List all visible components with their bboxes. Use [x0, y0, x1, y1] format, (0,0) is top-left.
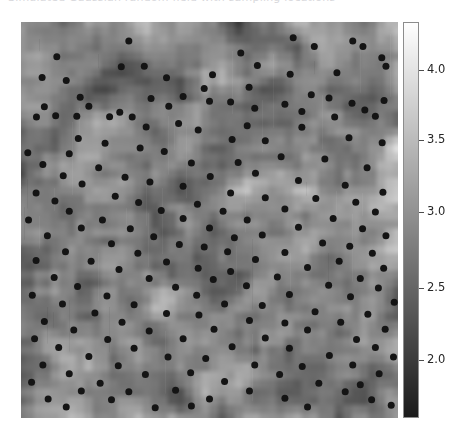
colorbar-tick-mark — [419, 288, 424, 289]
random-field-heatmap — [21, 22, 398, 418]
colorbar-tick-mark — [419, 140, 424, 141]
clipped-title-text: Simulated Gaussian random field with sam… — [8, 0, 335, 4]
colorbar-tick-mark — [419, 360, 424, 361]
colorbar-tick-label: 3.5 — [427, 134, 445, 146]
figure-canvas: Simulated Gaussian random field with sam… — [0, 0, 463, 440]
colorbar — [403, 22, 419, 418]
random-field-panel — [21, 22, 398, 418]
colorbar-tick-label: 3.0 — [427, 206, 445, 218]
colorbar-frame — [403, 22, 419, 418]
colorbar-tick-label: 4.0 — [427, 64, 445, 76]
colorbar-tick-mark — [419, 212, 424, 213]
colorbar-tick-mark — [419, 70, 424, 71]
colorbar-tick-label: 2.5 — [427, 282, 445, 294]
colorbar-tick-label: 2.0 — [427, 354, 445, 366]
clipped-title: Simulated Gaussian random field with sam… — [0, 0, 463, 6]
